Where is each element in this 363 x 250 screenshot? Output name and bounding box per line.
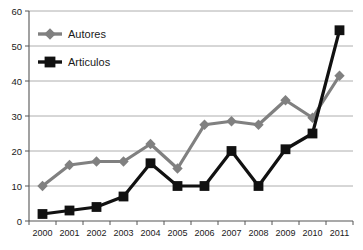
legend-label-articulos: Articulos: [68, 56, 111, 68]
data-point-square-marker: [335, 25, 345, 35]
x-tick-label-2000: 2000: [32, 228, 52, 238]
legend-label-autores: Autores: [68, 28, 106, 40]
line-chart: 60 50 40 30 20 10 0 20002001200220032004…: [0, 0, 363, 250]
x-tick-label-2007: 2007: [221, 228, 241, 238]
data-point-square-marker: [227, 146, 237, 156]
data-point-square-marker: [146, 158, 156, 168]
x-tick-label-2008: 2008: [248, 228, 268, 238]
data-point-square-marker: [200, 181, 210, 191]
y-tick-label-0: 0: [17, 216, 22, 227]
y-tick-label-40: 40: [11, 76, 22, 87]
x-tick-label-2010: 2010: [302, 228, 322, 238]
data-point-square-marker: [254, 181, 264, 191]
y-tick-label-60: 60: [11, 6, 22, 17]
data-point-square-marker: [281, 144, 291, 154]
data-point-square-marker: [92, 202, 102, 212]
data-point-square-marker: [119, 192, 129, 202]
x-tick-label-2005: 2005: [167, 228, 187, 238]
y-tick-label-30: 30: [11, 111, 22, 122]
x-tick-label-2011: 2011: [330, 228, 349, 238]
x-tick-label-2009: 2009: [275, 228, 295, 238]
y-tick-label-10: 10: [11, 181, 22, 192]
data-point-square-marker: [173, 181, 183, 191]
data-point-square-marker: [308, 129, 318, 139]
x-tick-label-2002: 2002: [86, 228, 106, 238]
x-tick-label-2001: 2001: [59, 228, 79, 238]
data-point-square-marker: [38, 209, 48, 219]
y-tick-label-20: 20: [11, 146, 22, 157]
chart-plot-area: 60 50 40 30 20 10 0 20002001200220032004…: [0, 0, 363, 250]
data-point-square-marker: [65, 206, 75, 216]
y-tick-label-50: 50: [11, 41, 22, 52]
square-marker-icon: [45, 57, 56, 68]
x-tick-label-2006: 2006: [194, 228, 214, 238]
x-tick-label-2003: 2003: [113, 228, 133, 238]
x-tick-label-2004: 2004: [140, 228, 160, 238]
